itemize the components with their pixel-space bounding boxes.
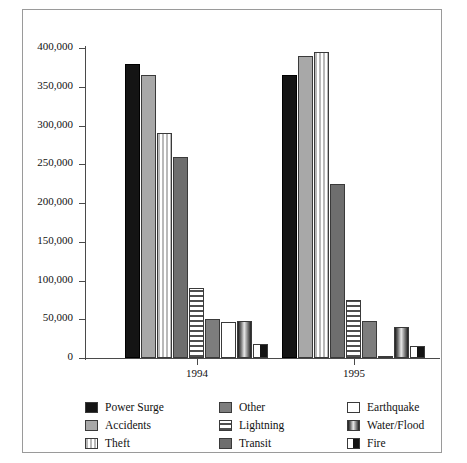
legend-label: Transit	[239, 437, 271, 449]
bar-group-1994	[125, 48, 269, 358]
y-axis-tick-label: 100,000	[37, 273, 73, 285]
bar-transit-1994	[173, 157, 188, 359]
legend-item-theft[interactable]: Theft	[85, 437, 219, 449]
bar-power-surge-1994	[125, 64, 140, 359]
bar-fire-1994	[253, 344, 268, 358]
legend-swatch-icon	[347, 438, 360, 449]
y-axis-tick-label: 200,000	[37, 195, 73, 207]
legend-label: Fire	[367, 437, 386, 449]
y-axis-tick-label: 300,000	[37, 118, 73, 130]
legend-item-accidents[interactable]: Accidents	[85, 419, 219, 431]
bar-fire-1995	[410, 346, 425, 358]
x-axis	[85, 358, 440, 359]
x-axis-tick-mark	[197, 358, 198, 365]
y-axis-tick-label: 350,000	[37, 79, 73, 91]
legend-item-transit[interactable]: Transit	[219, 437, 347, 449]
y-axis-tick-label: 400,000	[37, 40, 73, 52]
bar-earthquake-1995	[378, 356, 393, 358]
y-axis-tick-label: 150,000	[37, 234, 73, 246]
bar-other-1994	[205, 319, 220, 358]
y-axis-tick-label: 0	[68, 350, 74, 362]
bar-water-flood-1995	[394, 327, 409, 358]
y-axis-tick-label: 50,000	[43, 311, 73, 323]
legend-swatch-icon	[219, 420, 232, 431]
legend-item-earthquake[interactable]: Earthquake	[347, 401, 447, 413]
bar-accidents-1995	[298, 56, 313, 358]
legend-label: Theft	[105, 437, 130, 449]
bar-transit-1995	[330, 184, 345, 358]
bar-lightning-1995	[346, 300, 361, 358]
x-axis-tick-label: 1994	[167, 367, 227, 379]
bar-lightning-1994	[189, 288, 204, 358]
chart-legend: Power SurgeOtherEarthquakeAccidentsLight…	[85, 398, 430, 452]
legend-label: Other	[239, 401, 265, 413]
bar-theft-1994	[157, 133, 172, 358]
legend-label: Lightning	[239, 419, 284, 431]
bar-water-flood-1994	[237, 321, 252, 358]
x-axis-tick-label: 1995	[324, 367, 384, 379]
legend-item-lightning[interactable]: Lightning	[219, 419, 347, 431]
legend-item-fire[interactable]: Fire	[347, 437, 447, 449]
bar-other-1995	[362, 321, 377, 358]
bar-group-1995	[282, 48, 426, 358]
legend-label: Earthquake	[367, 401, 419, 413]
plot-area	[85, 48, 439, 358]
chart-frame: 400,000350,000300,000250,000200,000150,0…	[22, 9, 442, 453]
legend-label: Power Surge	[105, 401, 164, 413]
bar-accidents-1994	[141, 75, 156, 358]
legend-swatch-icon	[219, 402, 232, 413]
legend-item-water-flood[interactable]: Water/Flood	[347, 419, 447, 431]
legend-label: Accidents	[105, 419, 151, 431]
legend-swatch-icon	[85, 420, 98, 431]
legend-item-other[interactable]: Other	[219, 401, 347, 413]
bar-theft-1995	[314, 52, 329, 358]
legend-swatch-icon	[347, 420, 360, 431]
y-axis-tick-mark	[79, 358, 86, 359]
legend-swatch-icon	[219, 438, 232, 449]
bar-power-surge-1995	[282, 75, 297, 358]
legend-item-power-surge[interactable]: Power Surge	[85, 401, 219, 413]
legend-swatch-icon	[85, 438, 98, 449]
x-axis-tick-mark	[354, 358, 355, 365]
y-axis-tick-label: 250,000	[37, 156, 73, 168]
legend-swatch-icon	[85, 402, 98, 413]
legend-label: Water/Flood	[367, 419, 424, 431]
bar-earthquake-1994	[221, 322, 236, 358]
legend-swatch-icon	[347, 402, 360, 413]
